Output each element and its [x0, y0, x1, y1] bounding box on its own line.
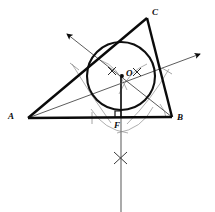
label-vertex-c: C	[152, 8, 158, 17]
dot-incenter-O	[120, 74, 124, 78]
label-vertex-a: A	[8, 112, 14, 121]
tick-ca-mark	[70, 63, 79, 70]
label-incenter-o: O	[126, 69, 133, 78]
side-bc	[147, 18, 172, 117]
label-foot-f: F	[114, 121, 120, 130]
label-vertex-b: B	[177, 113, 183, 122]
cross-left-of-O	[108, 67, 116, 75]
vertex-dots-group	[120, 74, 124, 78]
geometry-canvas	[0, 0, 215, 212]
bisector-ray-from-B	[67, 34, 172, 117]
compass-crosses-group	[108, 67, 141, 164]
right-angle-marker	[115, 111, 121, 117]
side-ab	[28, 117, 172, 118]
geometry-figure: A B C O F	[0, 0, 215, 212]
